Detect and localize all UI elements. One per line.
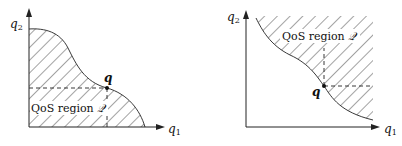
right-x-axis-label: q1 — [384, 122, 397, 137]
left-point-q — [105, 86, 109, 90]
left-y-axis-label: q2 — [10, 17, 23, 32]
left-x-axis-label: q1 — [168, 122, 181, 137]
left-region-label: QoS region 𝒬 — [31, 102, 107, 115]
left-point-q-label: q — [104, 71, 112, 85]
right-diagram: q2 q1 q QoS region 𝒬 — [227, 10, 397, 137]
right-point-q — [322, 84, 326, 88]
left-x-axis-arrow-icon — [156, 124, 165, 130]
right-x-axis-arrow-icon — [371, 124, 380, 130]
right-point-q-label: q — [312, 85, 320, 99]
right-y-axis-label: q2 — [227, 10, 240, 25]
right-y-axis-arrow-icon — [243, 10, 249, 19]
right-region-label: QoS region 𝒬 — [282, 30, 358, 43]
diagram-canvas: q2 q1 q QoS region 𝒬 q2 q1 q QoS region … — [0, 0, 402, 146]
left-diagram: q2 q1 q QoS region 𝒬 — [10, 8, 181, 137]
left-y-axis-arrow-icon — [26, 8, 32, 17]
